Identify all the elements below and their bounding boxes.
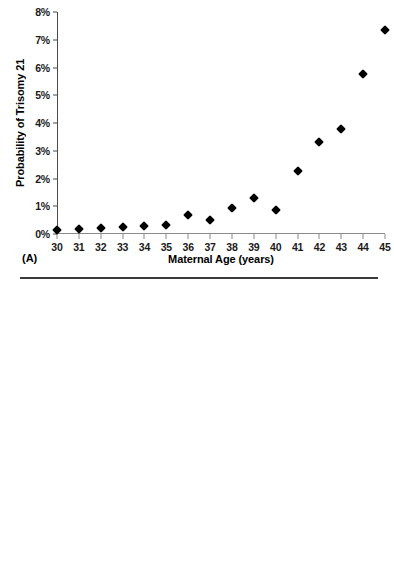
panel-a-y-tick-label: 3% [35,145,57,157]
panel-a-label: (A) [22,252,37,264]
panel-a-x-tick-mark [385,234,386,239]
panel-a-x-tick-mark [341,234,342,239]
panel-a-data-point [336,124,346,134]
panel-a-x-tick-mark [188,234,189,239]
panel-a: Probability of Trisomy 21 0%1%2%3%4%5%6%… [0,0,394,270]
panel-a-x-tick-label: 32 [95,241,106,253]
panel-a-x-tick-mark [363,234,364,239]
panel-a-x-tick-label: 31 [73,241,84,253]
panel-a-x-tick-mark [275,234,276,239]
panel-a-x-axis-line [57,233,385,234]
panel-a-data-point [271,205,281,215]
panel-b: Ln(Odds) of Trisomy 21 -6.5-6-5.5-5-4.5-… [0,270,394,545]
panel-a-data-point [249,193,259,203]
panel-a-data-point [227,203,237,213]
panel-a-x-tick-label: 30 [51,241,62,253]
panel-a-x-tick-label: 42 [314,241,325,253]
panel-a-data-point [205,215,215,225]
panel-a-plot-area: 0%1%2%3%4%5%6%7%8%3031323334353637383940… [57,12,385,234]
panel-a-x-tick-label: 39 [248,241,259,253]
panel-a-y-tick-label: 8% [35,6,57,18]
panel-a-x-tick-mark [231,234,232,239]
panel-a-x-tick-mark [122,234,123,239]
panel-a-x-tick-label: 43 [336,241,347,253]
panel-a-y-tick-label: 5% [35,89,57,101]
panel-a-x-tick-mark [166,234,167,239]
panel-a-data-point [380,25,390,35]
panel-a-x-tick-label: 41 [292,241,303,253]
panel-a-x-axis-title: Maternal Age (years) [57,253,385,265]
panel-a-x-tick-label: 35 [161,241,172,253]
panel-a-data-point [118,222,128,232]
panel-a-x-tick-mark [78,234,79,239]
panel-a-data-point [96,223,106,233]
panel-a-x-tick-label: 33 [117,241,128,253]
panel-a-x-tick-label: 38 [226,241,237,253]
panel-a-x-tick-label: 37 [204,241,215,253]
panel-a-x-tick-mark [210,234,211,239]
panel-a-data-point [140,221,150,231]
panel-a-y-tick-label: 1% [35,200,57,212]
panel-a-data-point [183,210,193,220]
panel-a-data-point [358,69,368,79]
panel-a-y-tick-label: 6% [35,62,57,74]
panel-a-y-tick-label: 7% [35,34,57,46]
panel-a-x-tick-label: 45 [379,241,390,253]
panel-a-x-tick-mark [319,234,320,239]
panel-a-y-tick-label: 2% [35,173,57,185]
panel-a-x-tick-mark [253,234,254,239]
panel-a-y-tick-label: 4% [35,117,57,129]
panel-a-data-point [293,166,303,176]
panel-a-x-tick-mark [100,234,101,239]
panel-a-x-tick-label: 40 [270,241,281,253]
panel-a-data-point [314,137,324,147]
panel-a-x-tick-label: 44 [357,241,368,253]
panel-a-x-tick-label: 36 [183,241,194,253]
panel-a-data-point [161,220,171,230]
panel-a-x-tick-mark [297,234,298,239]
panel-a-x-tick-label: 34 [139,241,150,253]
panel-a-y-axis-title: Probability of Trisomy 21 [14,12,26,234]
panel-a-x-tick-mark [144,234,145,239]
panel-a-y-axis-line [57,12,58,234]
